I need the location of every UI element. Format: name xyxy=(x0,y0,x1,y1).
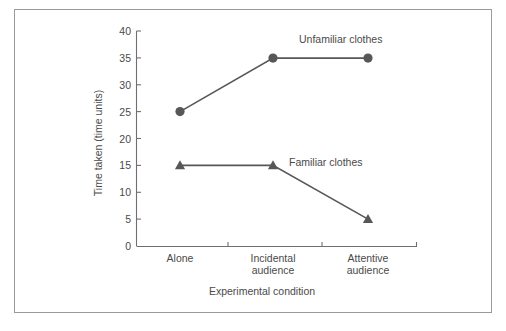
y-tick-label: 0 xyxy=(125,240,131,252)
y-tick-label: 30 xyxy=(119,79,131,91)
x-tick-label-attentive-line2: audience xyxy=(347,264,390,276)
x-axis-title: Experimental condition xyxy=(209,285,315,297)
y-tick-label: 40 xyxy=(119,25,131,37)
y-axis-ticks xyxy=(137,31,142,219)
series-markers-unfamiliar-clothes xyxy=(175,54,372,117)
series-label-unfamiliar-clothes: Unfamiliar clothes xyxy=(299,33,382,45)
y-tick-label: 25 xyxy=(119,106,131,118)
y-tick-label: 5 xyxy=(125,213,131,225)
series-markers-familiar-clothes xyxy=(175,160,373,223)
x-tick-label-incidental-line1: Incidental xyxy=(251,252,296,264)
line-chart: 40 35 30 25 20 15 10 5 0 Alone Incidenta… xyxy=(0,0,506,331)
data-point-marker xyxy=(363,214,373,223)
series-line-familiar-clothes xyxy=(180,165,368,219)
y-tick-label: 20 xyxy=(119,133,131,145)
y-tick-labels: 40 35 30 25 20 15 10 5 0 xyxy=(119,25,131,252)
figure-container: 40 35 30 25 20 15 10 5 0 Alone Incidenta… xyxy=(0,0,506,331)
y-tick-label: 15 xyxy=(119,159,131,171)
y-axis-title: Time taken (time units) xyxy=(92,90,104,196)
series-label-familiar-clothes: Familiar clothes xyxy=(289,156,363,168)
x-tick-label-alone: Alone xyxy=(167,252,194,264)
y-tick-label: 10 xyxy=(119,186,131,198)
x-tick-label-attentive-line1: Attentive xyxy=(348,252,389,264)
data-point-marker xyxy=(363,54,372,63)
x-tick-labels: Alone Incidental audience Attentive audi… xyxy=(167,252,390,276)
y-tick-label: 35 xyxy=(119,52,131,64)
series-line-unfamiliar-clothes xyxy=(180,58,368,112)
data-point-marker xyxy=(268,54,277,63)
x-axis-ticks xyxy=(228,242,417,247)
data-point-marker xyxy=(175,107,184,116)
x-tick-label-incidental-line2: audience xyxy=(252,264,295,276)
